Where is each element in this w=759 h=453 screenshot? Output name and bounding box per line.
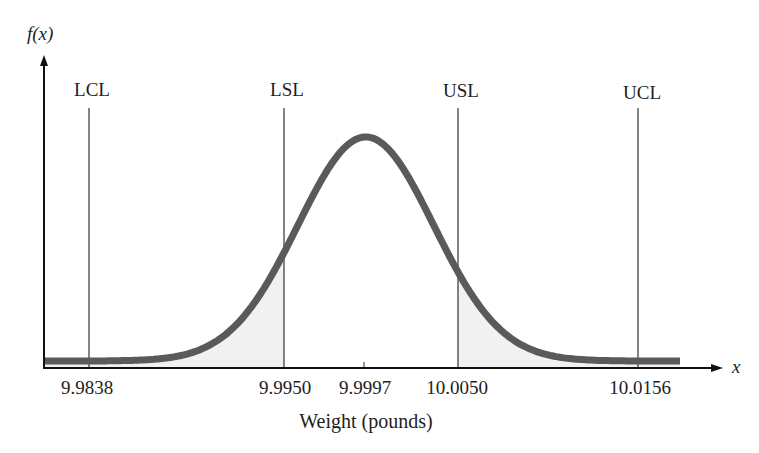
ucl-label: UCL [623, 82, 661, 104]
x-axis-symbol: x [732, 356, 740, 378]
shaded-region-below-lsl [44, 137, 680, 368]
y-axis-arrow-icon [40, 55, 48, 66]
x-axis-arrow-icon [711, 364, 723, 372]
shaded-region-above-usl [44, 137, 680, 368]
tick-label-ucl: 10.0156 [609, 377, 671, 399]
lsl-label: LSL [270, 79, 304, 101]
lcl-label: LCL [74, 79, 110, 101]
tick-label-usl: 10.0050 [426, 377, 488, 399]
usl-label: USL [443, 80, 479, 102]
normal-curve [44, 137, 680, 361]
x-axis-title: Weight (pounds) [299, 410, 432, 433]
tick-label-lcl: 9.9838 [61, 377, 113, 399]
tick-label-mean: 9.9997 [339, 377, 391, 399]
tick-label-lsl: 9.9950 [259, 377, 311, 399]
y-axis-label: f(x) [27, 23, 53, 45]
